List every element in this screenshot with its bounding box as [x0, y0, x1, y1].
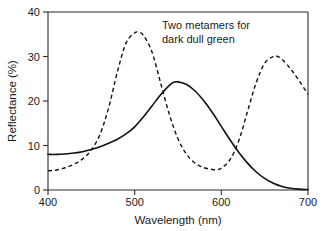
- x-axis-tick-labels: 400 500 600 700: [39, 196, 317, 208]
- x-axis-title: Wavelength (nm): [134, 214, 221, 226]
- y-tick-label-0: 0: [34, 184, 40, 196]
- x-tick-label-400: 400: [39, 196, 57, 208]
- x-tick-label-700: 700: [299, 196, 317, 208]
- x-tick-label-500: 500: [126, 196, 144, 208]
- y-tick-label-40: 40: [28, 6, 40, 18]
- y-tick-label-20: 20: [28, 95, 40, 107]
- chart-canvas: 0 10 20 30 40 400 500 600 700 Wavelength…: [0, 0, 322, 231]
- y-axis-ticks: [43, 12, 48, 190]
- x-axis-ticks: [48, 190, 308, 195]
- annotation-line-2: dark dull green: [162, 33, 235, 45]
- reflectance-chart-figure: 0 10 20 30 40 400 500 600 700 Wavelength…: [0, 0, 322, 231]
- y-axis-tick-labels: 0 10 20 30 40: [28, 6, 40, 196]
- y-axis-title: Reflectance (%): [6, 60, 18, 142]
- y-tick-label-30: 30: [28, 51, 40, 63]
- y-tick-label-10: 10: [28, 140, 40, 152]
- x-tick-label-600: 600: [212, 196, 230, 208]
- series-metamer-solid: [48, 82, 308, 190]
- annotation-line-1: Two metamers for: [162, 19, 250, 31]
- chart-annotation: Two metamers for dark dull green: [162, 19, 250, 45]
